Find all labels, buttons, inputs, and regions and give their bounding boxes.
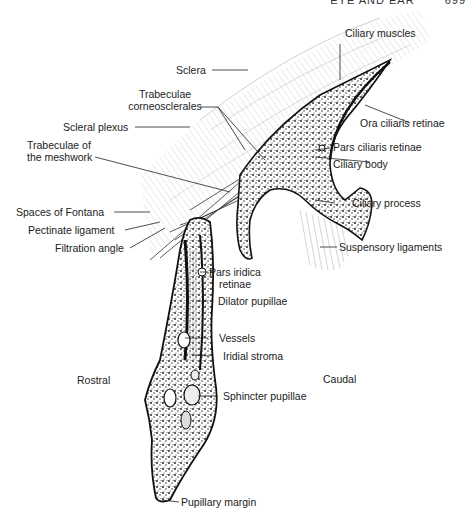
label-spaces-of-fontana: Spaces of Fontana xyxy=(16,206,104,218)
label-trabeculae-corneosclerales-line1: Trabeculae xyxy=(115,88,215,100)
label-pars-iridica-line1: Pars iridica xyxy=(205,266,265,278)
label-trabeculae-corneosclerales: Trabeculae corneosclerales xyxy=(115,88,215,112)
label-ciliary-process: Ciliary process xyxy=(352,197,421,209)
label-pars-ciliaris-retinae: Pars ciliaris retinae xyxy=(333,141,422,153)
label-trabeculae-corneosclerales-line2: corneosclerales xyxy=(115,100,215,112)
label-dilator-pupillae: Dilator pupillae xyxy=(218,295,287,307)
label-pars-iridica-retinae: Pars iridica retinae xyxy=(205,266,265,290)
label-suspensory-ligaments: Suspensory ligaments xyxy=(339,241,442,253)
iris xyxy=(145,218,217,502)
label-caudal: Caudal xyxy=(323,373,356,385)
label-rostral: Rostral xyxy=(77,374,110,386)
label-vessels: Vessels xyxy=(219,332,255,344)
label-sphincter-pupillae: Sphincter pupillae xyxy=(223,390,306,402)
label-pars-iridica-line2: retinae xyxy=(205,278,265,290)
label-trabeculae-meshwork-line2: the meshwork xyxy=(27,151,92,163)
label-trabeculae-of-meshwork: Trabeculae of the meshwork xyxy=(27,139,92,163)
label-iridial-stroma: Iridial stroma xyxy=(223,350,283,362)
label-trabeculae-meshwork-line1: Trabeculae of xyxy=(27,139,92,151)
label-pectinate-ligament: Pectinate ligament xyxy=(28,224,114,236)
anatomical-illustration xyxy=(0,0,476,518)
label-ciliary-body: Ciliary body xyxy=(333,158,388,170)
label-ciliary-muscles: Ciliary muscles xyxy=(345,27,416,39)
label-sclera: Sclera xyxy=(176,64,206,76)
label-pupillary-margin: Pupillary margin xyxy=(181,496,256,508)
label-ora-ciliaris-retinae: Ora ciliaris retinae xyxy=(360,117,445,129)
label-filtration-angle: Filtration angle xyxy=(55,242,124,254)
label-scleral-plexus: Scleral plexus xyxy=(63,121,128,133)
